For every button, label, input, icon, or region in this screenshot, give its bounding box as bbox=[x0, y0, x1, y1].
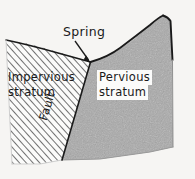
pervious-label-line1: Pervious bbox=[97, 70, 152, 85]
pervious-label-line2: stratum bbox=[97, 85, 148, 100]
impervious-label-line1: Impervious bbox=[8, 70, 75, 85]
spring-label: Spring bbox=[63, 24, 105, 39]
pervious-stratum-label: Pervious stratum bbox=[97, 70, 152, 100]
impervious-stratum-label: Impervious stratum bbox=[8, 70, 75, 100]
geology-block-diagram-figure: Spring Impervious stratum Pervious strat… bbox=[0, 0, 195, 179]
